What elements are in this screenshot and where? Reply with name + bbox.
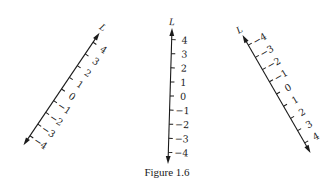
tick-label: 2 (297, 106, 308, 119)
tick-mark (93, 42, 96, 44)
tick-mark (62, 89, 65, 91)
arrow-up-icon (169, 28, 174, 36)
tick-label: −4 (174, 147, 188, 158)
tick-label: −1 (175, 105, 189, 116)
tick-label: 1 (289, 93, 300, 106)
right-line: L−4−3−2−101234 (233, 15, 328, 155)
axis-label: L (233, 23, 245, 36)
tick-mark (248, 43, 251, 45)
tick-label: −3 (175, 133, 189, 144)
tick-mark (77, 66, 80, 68)
tick-mark (305, 141, 308, 143)
tick-mark (269, 80, 272, 82)
tick-mark (54, 101, 57, 103)
left-line: L−4−3−2−101234 (20, 20, 123, 156)
arrow-down-icon (304, 145, 312, 154)
tick-label: 4 (182, 34, 188, 45)
tick-mark (38, 124, 41, 126)
tick-mark (69, 77, 72, 79)
figure-1-6: Figure 1.6 L−4−3−2−101234L−4−3−2−101234L… (0, 0, 334, 182)
tick-mark (46, 112, 49, 114)
tick-label: 3 (181, 49, 187, 60)
tick-label: 0 (67, 90, 78, 103)
middle-line: L−4−3−2−101234 (164, 16, 192, 165)
tick-mark (255, 55, 258, 57)
tick-mark (298, 129, 301, 131)
arrow-up-icon (240, 34, 248, 43)
tick-label: 1 (180, 77, 186, 88)
tick-mark (30, 136, 33, 138)
figure-caption: Figure 1.6 (144, 166, 190, 178)
arrow-down-icon (21, 137, 29, 146)
tick-mark (291, 116, 294, 118)
tick-label: 4 (98, 43, 109, 56)
axis-label: L (97, 20, 109, 33)
tick-label: 4 (311, 130, 322, 143)
tick-label: 0 (180, 91, 186, 102)
tick-label: 3 (90, 55, 101, 68)
tick-mark (85, 54, 88, 56)
tick-label: −2 (175, 119, 189, 130)
axis-label: L (168, 16, 175, 27)
tick-label: 0 (282, 81, 293, 94)
arrow-down-icon (166, 156, 171, 164)
tick-mark (284, 104, 287, 106)
tick-mark (262, 68, 265, 70)
arrow-up-icon (93, 31, 101, 40)
tick-label: −4 (32, 135, 50, 152)
tick-label: 1 (75, 78, 86, 91)
tick-label: 2 (82, 67, 93, 80)
tick-label: 2 (181, 63, 187, 74)
tick-label: 3 (304, 118, 315, 131)
tick-mark (277, 92, 280, 94)
